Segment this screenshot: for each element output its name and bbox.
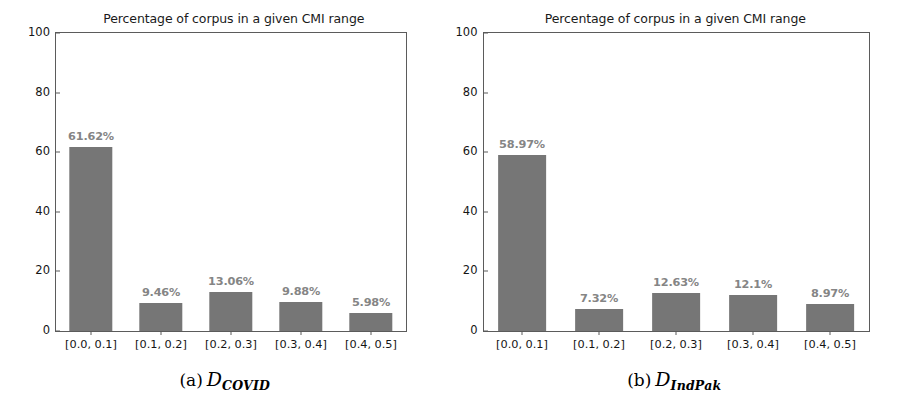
x-tick-label: [0.3, 0.4] <box>727 338 779 351</box>
panel-indpak: Percentage of corpus in a given CMI rang… <box>450 0 899 413</box>
x-tick-mark <box>676 331 677 335</box>
subcaption-b-symbol: D <box>651 368 670 390</box>
subcaption-b-letter: (b) <box>627 370 651 390</box>
x-tick-label: [0.2, 0.3] <box>650 338 702 351</box>
subcaption-b-subscript: IndPak <box>671 378 722 393</box>
y-tick-label: 80 <box>450 87 478 99</box>
y-tick-label: 100 <box>450 27 478 39</box>
y-tick-label: 20 <box>450 266 478 278</box>
x-tick-label: [0.0, 0.1] <box>496 338 548 351</box>
y-tick-label: 60 <box>22 146 50 158</box>
plot-area-b: 02040608010058.97%[0.0, 0.1]7.32%[0.1, 0… <box>483 32 870 332</box>
y-tick-mark <box>484 152 488 153</box>
y-tick-mark <box>56 152 60 153</box>
subcaption-a-subscript: COVID <box>222 378 270 393</box>
y-tick-label: 20 <box>22 266 50 278</box>
y-tick-mark <box>484 33 488 34</box>
bar-value-label: 12.1% <box>734 278 772 291</box>
x-tick-label: [0.0, 0.1] <box>65 338 117 351</box>
bar-b-3 <box>729 295 777 331</box>
y-tick-mark <box>56 271 60 272</box>
x-tick-mark <box>161 331 162 335</box>
y-tick-mark <box>56 92 60 93</box>
bar-b-2 <box>652 293 700 331</box>
y-tick-label: 0 <box>450 325 478 337</box>
x-tick-mark <box>599 331 600 335</box>
bar-value-label: 13.06% <box>208 275 254 288</box>
bar-value-label: 58.97% <box>499 138 545 151</box>
y-tick-mark <box>484 271 488 272</box>
y-tick-mark <box>56 211 60 212</box>
bar-value-label: 12.63% <box>653 276 699 289</box>
x-tick-label: [0.3, 0.4] <box>275 338 327 351</box>
bar-a-4 <box>349 313 392 331</box>
bar-b-1 <box>575 309 623 331</box>
bar-value-label: 9.88% <box>282 285 320 298</box>
y-tick-label: 40 <box>450 206 478 218</box>
y-tick-mark <box>56 331 60 332</box>
y-tick-mark <box>484 331 488 332</box>
bar-a-1 <box>139 303 182 331</box>
y-tick-label: 40 <box>22 206 50 218</box>
y-tick-mark <box>484 92 488 93</box>
bar-b-4 <box>806 304 854 331</box>
x-tick-mark <box>371 331 372 335</box>
x-tick-label: [0.1, 0.2] <box>573 338 625 351</box>
subcaption-a-symbol: D <box>203 368 222 390</box>
subcaption-a: (a)DCOVID <box>0 368 450 393</box>
bar-value-label: 9.46% <box>142 286 180 299</box>
chart-title-b: Percentage of corpus in a given CMI rang… <box>450 11 899 26</box>
subcaption-b: (b)DIndPak <box>450 368 899 393</box>
y-tick-label: 60 <box>450 146 478 158</box>
x-tick-mark <box>231 331 232 335</box>
bar-a-0 <box>69 147 112 331</box>
x-tick-label: [0.2, 0.3] <box>205 338 257 351</box>
x-tick-mark <box>522 331 523 335</box>
x-tick-label: [0.4, 0.5] <box>345 338 397 351</box>
y-tick-label: 100 <box>22 27 50 39</box>
chart-title-a: Percentage of corpus in a given CMI rang… <box>0 11 450 26</box>
bar-a-3 <box>279 302 322 331</box>
bar-value-label: 7.32% <box>580 292 618 305</box>
y-tick-label: 80 <box>22 87 50 99</box>
x-tick-mark <box>753 331 754 335</box>
x-tick-mark <box>830 331 831 335</box>
y-tick-mark <box>484 211 488 212</box>
x-tick-mark <box>301 331 302 335</box>
panel-covid: Percentage of corpus in a given CMI rang… <box>0 0 450 413</box>
plot-area-a: 02040608010061.62%[0.0, 0.1]9.46%[0.1, 0… <box>55 32 407 332</box>
x-tick-label: [0.1, 0.2] <box>135 338 187 351</box>
y-tick-label: 0 <box>22 325 50 337</box>
bar-value-label: 8.97% <box>811 287 849 300</box>
bar-a-2 <box>209 292 252 331</box>
bar-value-label: 5.98% <box>352 296 390 309</box>
subcaption-a-letter: (a) <box>179 370 202 390</box>
x-tick-label: [0.4, 0.5] <box>804 338 856 351</box>
bar-value-label: 61.62% <box>68 130 114 143</box>
bar-b-0 <box>498 155 546 331</box>
x-tick-mark <box>91 331 92 335</box>
y-tick-mark <box>56 33 60 34</box>
figure-container: Percentage of corpus in a given CMI rang… <box>0 0 899 413</box>
